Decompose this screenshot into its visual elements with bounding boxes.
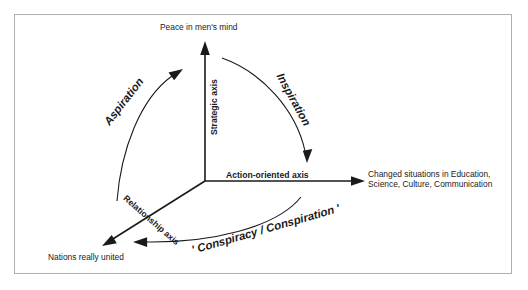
endpoint-label-nations-united: Nations really united	[48, 253, 124, 263]
figure-root: Peace in men's mind Changed situations i…	[0, 0, 528, 290]
diagram-canvas	[0, 0, 528, 290]
endpoint-label-peace: Peace in men's mind	[160, 23, 237, 33]
endpoint-label-changed-situations: Changed situations in Education, Science…	[368, 170, 508, 190]
axis-label-action-oriented: Action-oriented axis	[226, 170, 309, 180]
axis-label-strategic: Strategic axis	[209, 79, 219, 135]
